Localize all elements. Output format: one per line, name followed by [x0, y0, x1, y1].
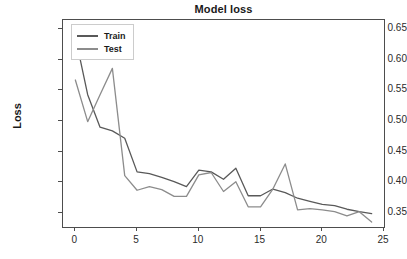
- plot-area: Train Test: [62, 19, 385, 228]
- x-tick-label: 15: [245, 234, 275, 245]
- legend-item-test[interactable]: Test: [77, 42, 126, 55]
- x-tick-label: 5: [121, 234, 151, 245]
- y-axis-label: Loss: [11, 86, 23, 146]
- x-tick-label: 25: [368, 234, 398, 245]
- series-line-test: [75, 68, 371, 222]
- x-tick-label: 0: [59, 234, 89, 245]
- series-line-train: [75, 37, 371, 214]
- chart-figure: Model loss Loss 0.350.400.450.500.550.60…: [0, 0, 407, 259]
- chart-legend: Train Test: [71, 24, 134, 60]
- x-tick-label: 20: [306, 234, 336, 245]
- legend-label-train: Train: [104, 31, 126, 41]
- legend-swatch-train: [77, 35, 98, 37]
- x-tick-label: 10: [183, 234, 213, 245]
- legend-label-test: Test: [104, 44, 122, 54]
- legend-swatch-test: [77, 48, 98, 50]
- chart-title: Model loss: [62, 3, 385, 15]
- legend-item-train[interactable]: Train: [77, 29, 126, 42]
